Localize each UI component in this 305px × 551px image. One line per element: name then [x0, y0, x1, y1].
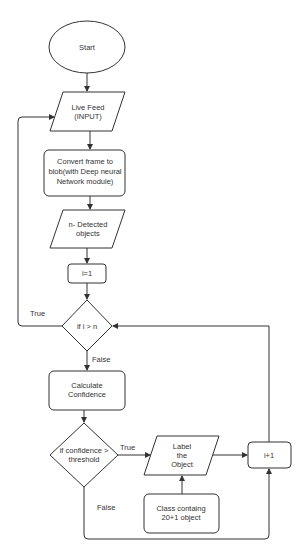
- node-init-i: i=1: [68, 264, 106, 283]
- node-check-i: if i > n: [62, 300, 112, 351]
- svg-text:Confidence: Confidence: [68, 390, 106, 399]
- node-classes: Class containg 20+1 object: [144, 494, 219, 533]
- svg-text:objects: objects: [76, 229, 100, 238]
- node-incr-i: i+1: [248, 442, 291, 468]
- node-convert: Convert frame to blob(with Deep neural N…: [44, 150, 125, 196]
- svg-text:Network module): Network module): [57, 177, 114, 186]
- svg-text:Convert frame to: Convert frame to: [57, 157, 113, 166]
- svg-text:blob(with Deep neural: blob(with Deep neural: [49, 167, 122, 176]
- svg-text:Class containg: Class containg: [156, 504, 205, 513]
- node-label-object: Label the Object: [144, 436, 219, 475]
- svg-text:Calculate: Calculate: [71, 381, 102, 390]
- svg-text:if i > n: if i > n: [77, 322, 97, 331]
- edge-label-check-i-false: False: [92, 355, 110, 364]
- svg-text:i=1: i=1: [82, 269, 92, 278]
- node-calc-conf: Calculate Confidence: [49, 371, 125, 410]
- flowchart-canvas: Start Live Feed (INPUT) Convert frame to…: [0, 0, 305, 551]
- edge-check-true-loop: [18, 117, 62, 326]
- edge-incr-to-check: [113, 326, 269, 442]
- node-detected: n- Detected objects: [50, 210, 125, 248]
- edge-label-check-conf-true: True: [120, 443, 135, 452]
- svg-text:if confidence >: if confidence >: [60, 446, 109, 455]
- edge-label-check-i-true: True: [30, 309, 45, 318]
- svg-text:20+1 object: 20+1 object: [162, 513, 202, 522]
- node-live-feed: Live Feed (INPUT): [50, 92, 125, 131]
- edges: [18, 73, 269, 539]
- svg-text:Label: Label: [173, 442, 192, 451]
- node-check-conf: if confidence > threshold: [50, 423, 118, 487]
- svg-text:(INPUT): (INPUT): [74, 112, 102, 121]
- svg-text:n- Detected: n- Detected: [69, 220, 108, 229]
- svg-text:Start: Start: [79, 43, 96, 52]
- svg-text:Live Feed: Live Feed: [72, 103, 105, 112]
- svg-text:i+1: i+1: [264, 451, 274, 460]
- edge-label-check-conf-false: False: [97, 503, 115, 512]
- svg-text:the: the: [177, 451, 187, 460]
- node-start: Start: [49, 21, 125, 73]
- svg-text:threshold: threshold: [69, 455, 100, 464]
- svg-text:Object: Object: [171, 460, 194, 469]
